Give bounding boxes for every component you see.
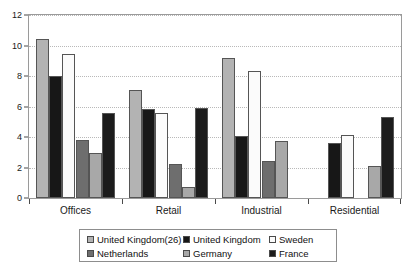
- legend-label: United Kingdom(26): [97, 234, 182, 245]
- legend-row: United Kingdom(26)United KingdomSweden: [83, 232, 333, 246]
- gridline: [29, 107, 401, 108]
- bar: [89, 153, 102, 198]
- bar: [235, 136, 248, 198]
- x-axis: OfficesRetailIndustrialResidential: [28, 199, 402, 221]
- bar: [62, 54, 75, 198]
- bar-chart-figure: 024681012 OfficesRetailIndustrialResiden…: [0, 0, 413, 277]
- bar: [328, 143, 341, 198]
- bar: [142, 109, 155, 198]
- y-tick-label: 6: [17, 102, 22, 111]
- bar: [129, 90, 142, 198]
- plot-area: [28, 14, 402, 199]
- x-tick-mark: [308, 199, 309, 204]
- bar: [155, 113, 168, 198]
- gridline: [29, 15, 401, 16]
- bar: [195, 108, 208, 198]
- bar: [275, 141, 288, 198]
- bar: [102, 113, 115, 198]
- legend-entry: France: [269, 246, 309, 260]
- legend-label: France: [279, 248, 309, 259]
- bar: [222, 58, 235, 198]
- legend-label: Germany: [193, 248, 232, 259]
- x-category-label-industrial: Industrial: [241, 205, 282, 217]
- bar: [381, 117, 394, 198]
- legend-swatch-icon: [269, 236, 276, 243]
- bar: [368, 166, 381, 198]
- chart-legend: United Kingdom(26)United KingdomSweden N…: [79, 229, 337, 262]
- gridline: [29, 46, 401, 47]
- bar: [49, 76, 62, 198]
- y-tick-label: 4: [17, 133, 22, 142]
- bar: [262, 161, 275, 198]
- x-category-label-retail: Retail: [156, 205, 182, 217]
- y-tick-label: 10: [12, 41, 22, 50]
- x-tick-mark: [29, 199, 30, 204]
- legend-swatch-icon: [87, 250, 94, 257]
- y-tick-label: 2: [17, 163, 22, 172]
- legend-swatch-icon: [269, 250, 276, 257]
- legend-entry: United Kingdom: [183, 232, 261, 246]
- plot-inner: [29, 15, 401, 198]
- legend-entry: Netherlands: [87, 246, 148, 260]
- y-tick-label: 12: [12, 11, 22, 20]
- legend-swatch-icon: [183, 236, 190, 243]
- legend-row: NetherlandsGermanyFrance: [83, 246, 333, 260]
- bar: [36, 39, 49, 198]
- bar: [341, 135, 354, 198]
- y-tick-label: 8: [17, 72, 22, 81]
- x-tick-mark: [400, 199, 401, 204]
- legend-entry: Germany: [183, 246, 232, 260]
- x-tick-mark: [122, 199, 123, 204]
- legend-swatch-icon: [183, 250, 190, 257]
- legend-entry: United Kingdom(26): [87, 232, 182, 246]
- gridline: [29, 76, 401, 77]
- x-tick-mark: [215, 199, 216, 204]
- legend-label: Sweden: [279, 234, 313, 245]
- legend-entry: Sweden: [269, 232, 313, 246]
- x-category-label-residential: Residential: [330, 205, 379, 217]
- legend-label: Netherlands: [97, 248, 148, 259]
- x-category-label-offices: Offices: [60, 205, 91, 217]
- y-axis: 024681012: [0, 14, 28, 199]
- bar: [169, 164, 182, 198]
- bar: [248, 71, 261, 198]
- y-tick-label: 0: [17, 194, 22, 203]
- legend-swatch-icon: [87, 236, 94, 243]
- bar: [76, 140, 89, 198]
- bar: [182, 187, 195, 198]
- legend-label: United Kingdom: [193, 234, 261, 245]
